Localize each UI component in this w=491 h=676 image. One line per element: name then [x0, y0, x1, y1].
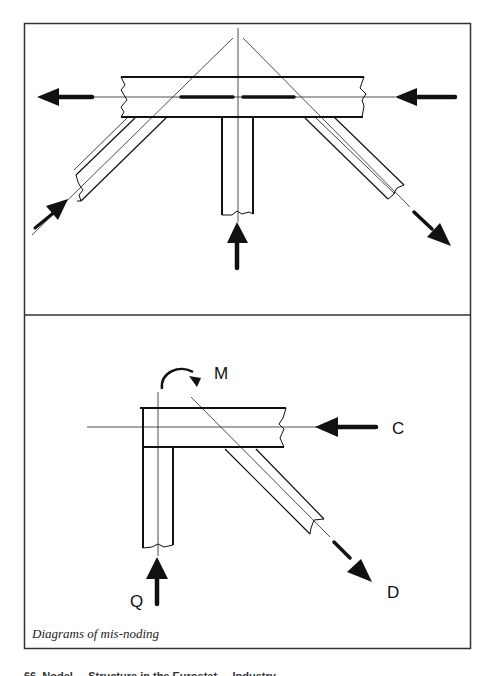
diagonal-arrow-icon [334, 542, 372, 582]
column-arrow-icon [146, 557, 168, 604]
figure-caption: Diagrams of mis-noding [32, 626, 159, 642]
chord-force-label: C [392, 419, 404, 438]
corner-diagonal-member [225, 449, 324, 534]
moment-label: M [214, 364, 228, 383]
diagonal-axis-line [191, 397, 330, 537]
diagonal-force-label: D [387, 583, 399, 602]
left-brace-member [74, 118, 166, 201]
right-brace-axis-line [243, 38, 410, 207]
column-force-label: Q [130, 592, 143, 611]
corner-chord-member [140, 408, 286, 447]
right-brace-arrow-icon [414, 212, 451, 246]
post-arrow-icon [227, 222, 248, 268]
right-brace-member [305, 118, 404, 199]
left-chord-arrow-icon [37, 88, 92, 106]
post-member [222, 118, 253, 215]
chord-arrow-icon [315, 417, 376, 437]
mis-noding-figure: M C Q D [0, 0, 491, 676]
cut-off-footer-text: 66. Nodal ... Structure in the Eurostat … [24, 667, 276, 676]
left-brace-arrow-icon [35, 199, 68, 228]
top-panel [32, 28, 455, 268]
moment-arrow-icon [162, 369, 201, 389]
bottom-panel: M C Q D [87, 364, 404, 611]
right-chord-arrow-icon [395, 88, 455, 106]
